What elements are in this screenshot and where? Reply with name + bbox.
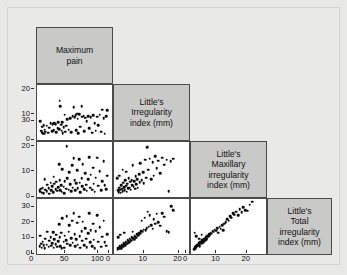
data-point xyxy=(87,178,90,181)
scatter-panel-r3c2 xyxy=(113,198,190,255)
data-point xyxy=(47,131,50,134)
data-point xyxy=(88,127,91,130)
x-axis-tick-label: 0 xyxy=(106,254,110,263)
data-point xyxy=(101,235,104,238)
data-point xyxy=(104,132,107,135)
data-point xyxy=(161,156,164,159)
x-axis-tick-mark xyxy=(31,250,32,253)
x-axis-tick-label: 10 xyxy=(211,254,219,263)
data-point xyxy=(93,183,96,186)
data-point xyxy=(67,231,70,234)
data-point xyxy=(106,233,109,236)
x-axis-tick-label: 10 xyxy=(139,254,147,263)
data-point xyxy=(42,240,45,243)
data-point xyxy=(44,237,47,240)
data-point xyxy=(91,131,94,134)
data-point xyxy=(150,224,153,227)
data-point xyxy=(172,209,175,212)
data-point xyxy=(98,170,101,173)
data-point xyxy=(151,227,154,230)
data-point xyxy=(143,216,146,219)
data-point xyxy=(142,182,145,185)
data-point xyxy=(75,238,78,241)
data-point xyxy=(240,211,243,214)
data-point xyxy=(235,210,238,213)
diagonal-label-text: Maximumpain xyxy=(54,45,95,66)
x-axis-tick-mark xyxy=(178,250,179,253)
data-point xyxy=(96,214,99,217)
x-axis-tick-mark xyxy=(215,250,216,253)
diagonal-label-littles-irregularity: Little'sIrregularityindex (mm) xyxy=(113,84,190,141)
y-axis-tick-label: 10 xyxy=(14,166,34,175)
data-point xyxy=(100,246,103,249)
data-point xyxy=(144,158,147,161)
data-point xyxy=(65,215,68,218)
data-point xyxy=(64,113,67,116)
data-point xyxy=(119,233,122,236)
data-point xyxy=(78,113,81,116)
x-axis-tick-mark xyxy=(108,250,109,253)
data-point xyxy=(52,191,55,194)
data-point xyxy=(117,236,120,239)
data-point xyxy=(71,241,74,244)
data-point xyxy=(157,221,160,224)
x-axis-tick-mark xyxy=(64,250,65,253)
diagonal-label-text: Little'sMaxillaryirregularityindex (mm) xyxy=(205,149,252,191)
x-axis-tick-label: 100 xyxy=(91,254,104,263)
data-point xyxy=(135,183,138,186)
data-point xyxy=(97,184,100,187)
data-point xyxy=(98,226,101,229)
data-point xyxy=(201,234,204,237)
data-point xyxy=(153,174,156,177)
y-axis-tick-label: 30 xyxy=(14,115,34,124)
data-point xyxy=(118,174,121,177)
figure-plate: Maximumpain Little'sIrregularityindex (m… xyxy=(7,7,340,265)
data-point xyxy=(125,170,128,173)
data-point xyxy=(93,247,96,250)
data-point xyxy=(246,210,249,213)
data-point xyxy=(131,230,134,233)
data-point xyxy=(79,247,82,250)
data-point xyxy=(249,203,252,206)
data-point xyxy=(88,156,91,159)
data-point xyxy=(71,164,74,167)
data-point xyxy=(88,212,91,215)
scatter-panel-r2c2 xyxy=(113,141,190,198)
data-point xyxy=(53,247,56,250)
data-point xyxy=(147,168,150,171)
data-point xyxy=(157,159,160,162)
data-point xyxy=(105,244,108,247)
data-point xyxy=(46,230,49,233)
x-axis-tick-label: 0 xyxy=(29,254,33,263)
data-point xyxy=(121,168,124,171)
data-point xyxy=(83,130,86,133)
data-point xyxy=(96,156,99,159)
diagonal-label-text: Little'sTotalirregularityindex (mm) xyxy=(276,206,323,248)
x-axis-tick-label: 0 xyxy=(183,254,187,263)
data-point xyxy=(92,114,95,117)
data-point xyxy=(73,212,76,215)
diagonal-label-maximum-pain: Maximumpain xyxy=(36,27,113,84)
data-point xyxy=(66,177,69,180)
data-point xyxy=(78,235,81,238)
data-point xyxy=(95,176,98,179)
data-point xyxy=(70,131,73,134)
data-point xyxy=(63,246,66,249)
data-point xyxy=(146,211,149,214)
data-point xyxy=(58,179,61,182)
data-point xyxy=(85,246,88,249)
data-point xyxy=(155,213,158,216)
y-axis-tick-label: 30 xyxy=(14,201,34,210)
data-point xyxy=(59,105,62,108)
data-point xyxy=(217,231,220,234)
data-point xyxy=(53,175,56,178)
data-point xyxy=(39,234,42,237)
data-point xyxy=(159,172,162,175)
data-point xyxy=(167,231,170,234)
data-point xyxy=(95,129,98,132)
data-point xyxy=(61,217,64,220)
data-point xyxy=(51,242,54,245)
data-point xyxy=(78,215,81,218)
data-point xyxy=(57,240,60,243)
data-point xyxy=(198,237,201,240)
